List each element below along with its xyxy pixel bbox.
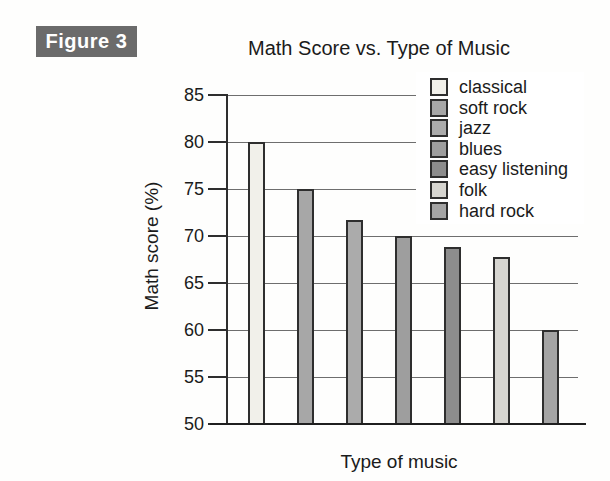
y-tick-75 xyxy=(208,188,227,190)
legend-swatch-easy-listening xyxy=(430,160,448,178)
legend-item-jazz: jazz xyxy=(430,118,491,138)
legend-item-easy-listening: easy listening xyxy=(430,159,568,179)
y-tick-85 xyxy=(208,94,227,96)
figure-label-badge: Figure 3 xyxy=(36,26,137,57)
legend-item-blues: blues xyxy=(430,139,502,159)
legend-label-hard-rock: hard rock xyxy=(459,201,534,221)
y-tick-label-50: 50 xyxy=(160,414,204,434)
y-tick-label-55: 55 xyxy=(160,367,204,387)
y-tick-55 xyxy=(208,376,227,378)
legend-label-folk: folk xyxy=(459,180,487,200)
legend-swatch-folk xyxy=(430,181,448,199)
legend-item-soft-rock: soft rock xyxy=(430,98,527,118)
y-tick-60 xyxy=(208,329,227,331)
bar-jazz xyxy=(346,220,363,425)
y-tick-label-85: 85 xyxy=(160,85,204,105)
legend-item-classical: classical xyxy=(430,77,527,97)
figure-panel: Figure 3 Math Score vs. Type of Music Ma… xyxy=(0,0,610,481)
y-tick-label-65: 65 xyxy=(160,273,204,293)
y-tick-65 xyxy=(208,282,227,284)
bar-hard-rock xyxy=(542,330,559,425)
y-tick-80 xyxy=(208,141,227,143)
bar-folk xyxy=(493,257,510,425)
legend-swatch-jazz xyxy=(430,119,448,137)
legend-label-blues: blues xyxy=(459,139,502,159)
legend-label-classical: classical xyxy=(459,77,527,97)
chart-title: Math Score vs. Type of Music xyxy=(248,37,510,60)
legend-label-soft-rock: soft rock xyxy=(459,98,527,118)
bar-classical xyxy=(248,142,265,425)
x-axis-label: Type of music xyxy=(340,451,457,473)
legend-swatch-blues xyxy=(430,140,448,158)
legend-item-hard-rock: hard rock xyxy=(430,201,534,221)
bar-soft-rock xyxy=(297,189,314,425)
y-tick-label-80: 80 xyxy=(160,132,204,152)
legend-label-jazz: jazz xyxy=(459,118,491,138)
legend-item-folk: folk xyxy=(430,180,487,200)
y-tick-label-60: 60 xyxy=(160,320,204,340)
legend-label-easy-listening: easy listening xyxy=(459,159,568,179)
y-tick-label-70: 70 xyxy=(160,226,204,246)
y-tick-label-75: 75 xyxy=(160,179,204,199)
y-tick-70 xyxy=(208,235,227,237)
x-axis-line xyxy=(210,423,586,425)
bar-blues xyxy=(395,236,412,425)
legend-swatch-soft-rock xyxy=(430,99,448,117)
legend-swatch-hard-rock xyxy=(430,202,448,220)
bar-easy-listening xyxy=(444,247,461,425)
legend-swatch-classical xyxy=(430,78,448,96)
